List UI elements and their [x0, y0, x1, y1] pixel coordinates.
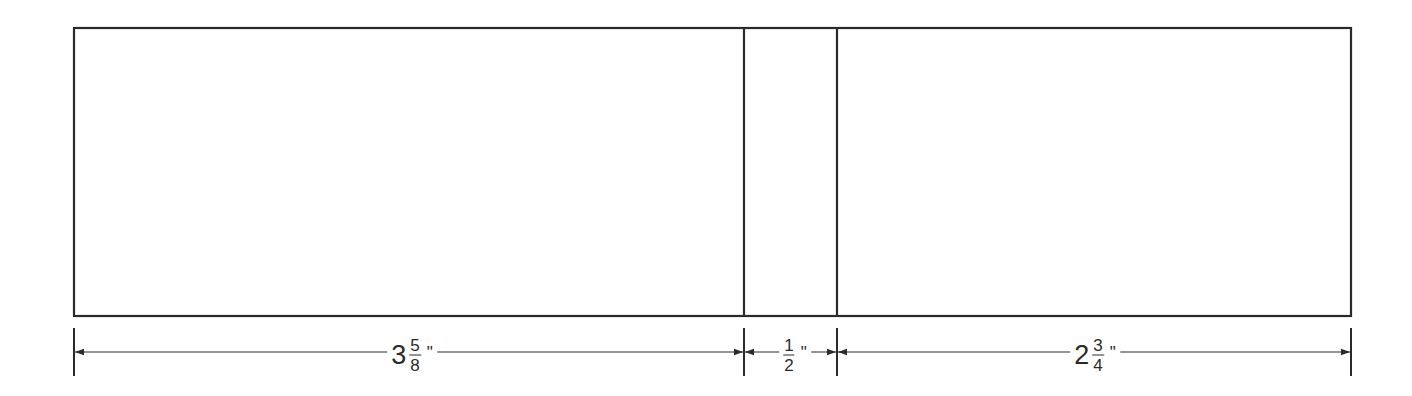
dimension-label-right: 2 3 4 " — [1070, 337, 1120, 374]
dimension-label-middle: 1 2 " — [779, 337, 811, 374]
dimension-diagram — [0, 0, 1412, 396]
numerator: 3 — [1092, 337, 1103, 356]
fraction: 3 4 — [1092, 337, 1103, 374]
dimension-label-left: 3 5 8 " — [387, 337, 437, 374]
inch-mark: " — [1110, 342, 1116, 362]
numerator: 5 — [409, 337, 420, 356]
inch-mark: " — [801, 342, 807, 362]
fraction: 1 2 — [783, 337, 794, 374]
whole-number: 2 — [1074, 342, 1089, 369]
inch-mark: " — [427, 342, 433, 362]
outer-rectangle — [74, 28, 1351, 316]
whole-number: 3 — [391, 342, 406, 369]
dimension-lines — [74, 328, 1351, 376]
fraction: 5 8 — [409, 337, 420, 374]
panel-outline — [74, 28, 1351, 316]
denominator: 8 — [410, 356, 419, 374]
denominator: 4 — [1093, 356, 1102, 374]
numerator: 1 — [783, 337, 794, 356]
denominator: 2 — [784, 356, 793, 374]
